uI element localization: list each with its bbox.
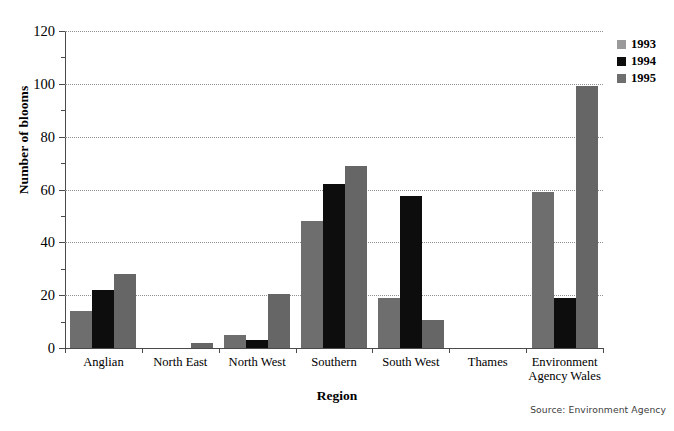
legend: 199319941995 (617, 36, 673, 87)
y-axis-tick-60 (59, 190, 65, 191)
legend-label-1993: 1993 (631, 38, 656, 51)
legend-label-1994: 1994 (631, 55, 656, 68)
y-axis-tick-90 (61, 110, 65, 111)
x-axis-tick-5 (526, 348, 527, 353)
y-axis-label-0: 0 (9, 341, 55, 356)
bar-1993-environment-agency-wales (532, 192, 554, 348)
legend-swatch-icon-1995 (617, 74, 626, 83)
y-axis-tick-80 (59, 137, 65, 138)
bar-1993-anglian (70, 311, 92, 348)
x-axis-tick-0 (142, 348, 143, 353)
y-axis-tick-70 (61, 163, 65, 164)
bar-1993-north-west (224, 335, 246, 348)
bar-1994-north-west (246, 340, 268, 348)
legend-label-1995: 1995 (631, 72, 656, 85)
y-axis-tick-30 (61, 269, 65, 270)
y-axis-tick-10 (61, 322, 65, 323)
x-axis-title: Region (0, 388, 674, 404)
gridline-y-100 (65, 84, 603, 85)
bar-1995-environment-agency-wales (576, 86, 598, 348)
bar-1995-anglian (114, 274, 136, 348)
x-axis-tick-3 (372, 348, 373, 353)
bar-1994-southern (323, 184, 345, 348)
bar-1995-north-west (268, 294, 290, 348)
y-axis-label-20: 20 (9, 288, 55, 303)
y-axis-tick-100 (59, 84, 65, 85)
gridline-y-80 (65, 137, 603, 138)
legend-swatch-icon-1993 (617, 40, 626, 49)
legend-swatch-icon-1994 (617, 57, 626, 66)
bar-1995-north-east (191, 343, 213, 348)
gridline-y-120 (65, 31, 603, 32)
y-axis-tick-40 (59, 242, 65, 243)
bar-1994-south-west (400, 196, 422, 348)
x-axis-label-anglian: Anglian (65, 355, 142, 369)
y-axis-tick-50 (61, 216, 65, 217)
bar-chart-figure: 020406080100120 Number of blooms Region … (0, 0, 674, 431)
y-axis-title: Number of blooms (16, 60, 32, 220)
legend-item-1994[interactable]: 1994 (617, 53, 673, 70)
x-axis-label-environment-agency-wales: Environment Agency Wales (526, 355, 603, 383)
bar-1995-southern (345, 166, 367, 348)
y-axis-label-120: 120 (9, 24, 55, 39)
legend-item-1995[interactable]: 1995 (617, 70, 673, 87)
x-axis-label-north-east: North East (142, 355, 219, 369)
x-axis-label-southern: Southern (296, 355, 373, 369)
x-axis-tick-origin (65, 348, 66, 353)
y-axis-label-40: 40 (9, 235, 55, 250)
x-axis-label-north-west: North West (219, 355, 296, 369)
legend-item-1993[interactable]: 1993 (617, 36, 673, 53)
x-axis-label-south-west: South West (372, 355, 449, 369)
x-axis-tick-6 (603, 348, 604, 353)
source-note: Source: Environment Agency (530, 404, 666, 415)
x-axis-tick-2 (296, 348, 297, 353)
bar-1994-anglian (92, 290, 114, 348)
y-axis-tick-20 (59, 295, 65, 296)
x-axis-tick-1 (219, 348, 220, 353)
x-axis-line (65, 348, 604, 349)
bar-1995-south-west (422, 320, 444, 348)
x-axis-tick-4 (449, 348, 450, 353)
bar-1994-environment-agency-wales (554, 298, 576, 348)
y-axis-tick-110 (61, 57, 65, 58)
bar-1993-southern (301, 221, 323, 348)
x-axis-label-thames: Thames (449, 355, 526, 369)
plot-area (65, 31, 603, 348)
y-axis-tick-120 (59, 31, 65, 32)
bar-1993-south-west (378, 298, 400, 348)
